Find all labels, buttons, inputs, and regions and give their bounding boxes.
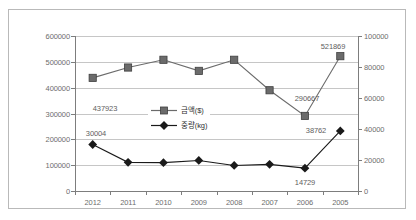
data-point-weight-2007[interactable] xyxy=(265,160,274,169)
data-point-amount-2009[interactable] xyxy=(195,67,202,74)
legend-diamond-marker-icon xyxy=(151,120,177,131)
data-point-weight-2011[interactable] xyxy=(124,158,133,167)
data-point-weight-2010[interactable] xyxy=(159,158,168,167)
data-point-weight-2012[interactable] xyxy=(88,140,97,149)
data-point-weight-2009[interactable] xyxy=(194,156,203,165)
x-axis-label-2006: 2006 xyxy=(297,198,313,207)
x-axis-label-2010: 2010 xyxy=(155,198,171,207)
x-tickmark xyxy=(323,191,324,195)
data-point-amount-2008[interactable] xyxy=(231,56,238,63)
chart-figure: 0 100000 200000 300000 400000 500000 600… xyxy=(0,0,416,220)
right-axis-tick-label: 80000 xyxy=(364,63,384,72)
left-axis-tick-label: 600000 xyxy=(46,32,70,41)
right-axis-line xyxy=(358,36,359,191)
x-axis-label-2012: 2012 xyxy=(85,198,101,207)
x-tickmark xyxy=(287,191,288,195)
data-label-weight-2012: 30004 xyxy=(86,129,106,138)
data-point-amount-2006[interactable] xyxy=(301,112,308,119)
right-axis-tick-label: 0 xyxy=(364,187,368,196)
right-tickmark xyxy=(358,129,362,130)
data-point-amount-2012[interactable] xyxy=(89,74,96,81)
right-axis-tick-label: 20000 xyxy=(364,156,384,165)
data-point-amount-2011[interactable] xyxy=(124,64,131,71)
left-axis-tick-label: 300000 xyxy=(46,109,70,118)
left-axis-tick-label: 200000 xyxy=(46,135,70,144)
legend-label-weight: 중량(kg) xyxy=(181,118,207,133)
legend-square-marker-icon xyxy=(151,105,177,116)
legend-label-amount: 금액($) xyxy=(181,103,204,118)
data-point-weight-2008[interactable] xyxy=(230,161,239,170)
right-tickmark xyxy=(358,36,362,37)
right-axis-tick-label: 40000 xyxy=(364,125,384,134)
x-axis-label-2008: 2008 xyxy=(226,198,242,207)
x-tickmark xyxy=(252,191,253,195)
x-tickmark xyxy=(217,191,218,195)
right-tickmark xyxy=(358,98,362,99)
right-axis-tick-label: 100000 xyxy=(364,32,388,41)
data-point-amount-2005[interactable] xyxy=(337,53,344,60)
legend-item-amount[interactable]: 금액($) xyxy=(151,103,207,118)
data-label-weight-2005: 38762 xyxy=(306,126,326,135)
data-point-amount-2007[interactable] xyxy=(266,87,273,94)
left-axis-tick-label: 0 xyxy=(66,187,70,196)
left-axis-tick-label: 500000 xyxy=(46,57,70,66)
series-layer xyxy=(75,36,358,191)
right-tickmark xyxy=(358,67,362,68)
x-axis-label-2007: 2007 xyxy=(261,198,277,207)
x-tickmark xyxy=(181,191,182,195)
right-axis-tick-label: 60000 xyxy=(364,94,384,103)
left-axis-tick-label: 400000 xyxy=(46,83,70,92)
x-tickmark xyxy=(146,191,147,195)
plot-area: 0 100000 200000 300000 400000 500000 600… xyxy=(75,36,358,191)
x-tickmark xyxy=(110,191,111,195)
legend-item-weight[interactable]: 중량(kg) xyxy=(151,118,207,133)
chart-legend: 금액($) 중량(kg) xyxy=(148,102,210,134)
data-label-amount-2012: 437923 xyxy=(93,104,117,113)
data-label-weight-2006: 14729 xyxy=(295,178,315,187)
data-point-amount-2010[interactable] xyxy=(160,56,167,63)
x-tickmark xyxy=(358,191,359,195)
right-tickmark xyxy=(358,160,362,161)
x-axis-label-2009: 2009 xyxy=(191,198,207,207)
x-axis-label-2011: 2011 xyxy=(120,198,136,207)
data-label-amount-2005: 521869 xyxy=(321,42,345,51)
x-axis-label-2005: 2005 xyxy=(332,198,348,207)
left-axis-tick-label: 100000 xyxy=(46,161,70,170)
x-tickmark xyxy=(75,191,76,195)
chart-frame: 0 100000 200000 300000 400000 500000 600… xyxy=(8,9,406,209)
data-label-amount-2006: 290667 xyxy=(295,94,319,103)
